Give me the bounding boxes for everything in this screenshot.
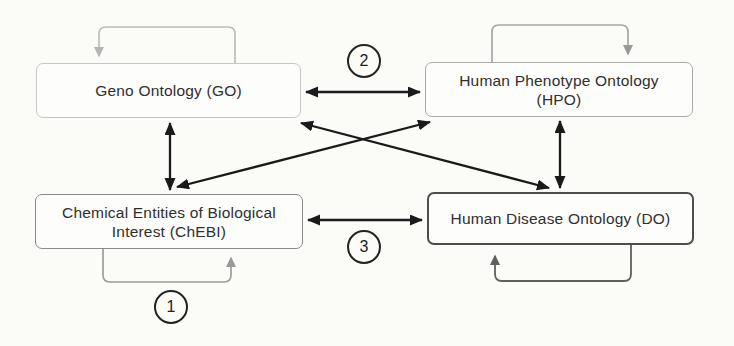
node-human-phenotype-ontology: Human Phenotype Ontology (HPO)	[425, 62, 693, 117]
diagram-canvas: Geno Ontology (GO) Human Phenotype Ontol…	[0, 0, 734, 346]
node-human-disease-ontology: Human Disease Ontology (DO)	[427, 192, 694, 245]
node-chemical-entities-chebi: Chemical Entities of Biological Interest…	[35, 194, 303, 249]
badge-1: 1	[154, 290, 188, 324]
self-loop-hpo	[492, 25, 628, 62]
node-label-line2: Interest (ChEBI)	[112, 222, 226, 241]
edge-go-do	[301, 123, 549, 188]
node-label-line1: Chemical Entities of Biological	[62, 203, 276, 222]
badge-2: 2	[347, 44, 381, 78]
self-loop-go	[99, 27, 235, 63]
badge-3-value: 3	[360, 238, 369, 256]
edge-chebi-hpo	[177, 122, 430, 187]
node-geno-ontology: Geno Ontology (GO)	[36, 63, 301, 118]
badge-3: 3	[347, 230, 381, 264]
badge-2-value: 2	[360, 52, 369, 70]
badge-1-value: 1	[167, 298, 176, 316]
node-label: Geno Ontology (GO)	[95, 81, 242, 100]
node-label: Human Disease Ontology (DO)	[451, 209, 671, 228]
node-label-line1: Human Phenotype Ontology	[459, 71, 659, 90]
self-loop-do	[495, 245, 631, 281]
self-loop-chebi	[103, 249, 231, 282]
node-label-line2: (HPO)	[537, 90, 582, 109]
